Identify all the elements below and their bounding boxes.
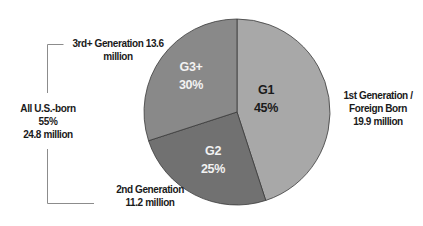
slice-label-g2: G2 25% xyxy=(194,142,232,178)
annotation-line: 1st Generation / xyxy=(334,89,422,102)
slice-label-g1: G1 45% xyxy=(247,81,285,117)
slice-g3-name: G3+ xyxy=(171,58,211,76)
slice-g2-name: G2 xyxy=(194,142,232,160)
annotation-all-us-born: All U.S.-born 55% 24.8 million xyxy=(14,102,82,141)
slice-g3-percent: 30% xyxy=(171,76,211,94)
annotation-line: 19.9 million xyxy=(334,115,422,128)
slice-g1-name: G1 xyxy=(247,81,285,99)
annotation-first-generation: 1st Generation / Foreign Born 19.9 milli… xyxy=(334,89,422,128)
annotation-line: 2nd Generation xyxy=(100,183,200,196)
slice-g1-percent: 45% xyxy=(247,99,285,117)
annotation-third-generation: 3rd+ Generation 13.6 million xyxy=(66,37,170,63)
annotation-second-generation: 2nd Generation 11.2 million xyxy=(100,183,200,209)
slice-g2-percent: 25% xyxy=(194,160,232,178)
annotation-line: million xyxy=(66,50,170,63)
annotation-line: 11.2 million xyxy=(100,196,200,209)
annotation-line: All U.S.-born xyxy=(14,102,82,115)
annotation-line: Foreign Born xyxy=(334,102,422,115)
annotation-line: 55% xyxy=(14,115,82,128)
pie-slices xyxy=(144,19,330,205)
annotation-line: 24.8 million xyxy=(14,128,82,141)
annotation-line: 3rd+ Generation 13.6 xyxy=(66,37,170,50)
slice-label-g3: G3+ 30% xyxy=(171,58,211,94)
